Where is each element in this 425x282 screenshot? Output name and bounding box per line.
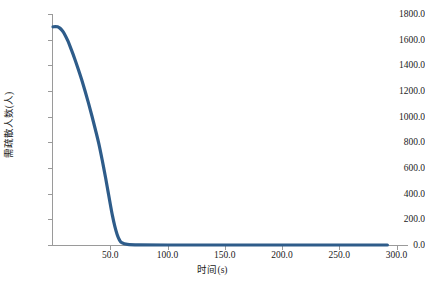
- data-curve-svg: [53, 14, 408, 245]
- series-line-path: [53, 27, 387, 245]
- y-tick-mark: [48, 91, 52, 92]
- y-tick-mark: [48, 168, 52, 169]
- plot-area: [53, 14, 408, 245]
- x-tick-label: 50.0: [87, 250, 133, 260]
- x-tick-label: 200.0: [259, 250, 305, 260]
- y-tick-mark: [48, 40, 52, 41]
- y-tick-mark: [48, 142, 52, 143]
- x-tick-label: 300.0: [374, 250, 420, 260]
- x-tick-label: 250.0: [316, 250, 362, 260]
- y-tick-mark: [48, 14, 52, 15]
- evacuation-line-chart: 0.0200.0400.0600.0800.01000.01200.01400.…: [0, 0, 425, 282]
- y-axis-title: 需疏散人数(人): [1, 73, 15, 177]
- y-tick-mark: [48, 65, 52, 66]
- y-tick-mark: [48, 194, 52, 195]
- x-tick-label: 150.0: [202, 250, 248, 260]
- y-tick-mark: [48, 219, 52, 220]
- y-tick-mark: [48, 117, 52, 118]
- x-axis-title: 时间(s): [0, 262, 425, 276]
- y-tick-mark: [48, 245, 52, 246]
- x-tick-label: 100.0: [145, 250, 191, 260]
